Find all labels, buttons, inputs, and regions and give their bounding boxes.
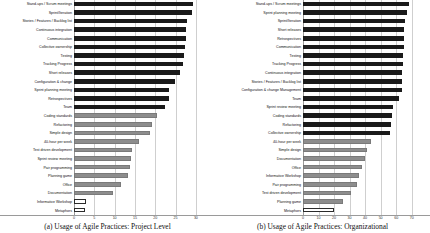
bar [303, 79, 402, 84]
bar-row: Coding standards [0, 112, 215, 121]
plot-area-b: Stand-ups / Scrum meetingsSprint plannin… [215, 0, 430, 215]
bar-cell [303, 77, 430, 86]
bar-cell [74, 120, 215, 129]
category-label: Tracking Progress [215, 62, 303, 66]
bar [74, 191, 113, 196]
category-label: Stand-ups / Scrum meetings [215, 2, 303, 6]
bar-row: Pair programming [215, 180, 430, 189]
bar [303, 122, 391, 127]
bar-cell [303, 189, 430, 198]
bar-row: Testing [215, 52, 430, 61]
bar [303, 113, 392, 118]
bar-row: Test driven development [215, 189, 430, 198]
bar-cell [74, 26, 215, 35]
bar-cell [74, 172, 215, 181]
bar-cell [303, 146, 430, 155]
bar-row: Tracking Progress [0, 60, 215, 69]
bar-cell [303, 69, 430, 78]
bar-row: Configuration & change Management [215, 86, 430, 95]
bar-row: Retrospectives [215, 34, 430, 43]
bar-row: Simple design [0, 129, 215, 138]
bar-cell [303, 120, 430, 129]
bar-cell [303, 43, 430, 52]
category-label: Testing [215, 54, 303, 58]
bar [74, 131, 150, 136]
axis-tick-label: 10 [113, 216, 117, 221]
category-label: Test driven development [0, 148, 74, 152]
chart-panel-project-level: Stand-ups / Scrum meetingsSprint/Iterati… [0, 0, 215, 222]
bar [74, 70, 180, 75]
bar-row: Planning game [0, 172, 215, 181]
bar-cell [303, 34, 430, 43]
bar-cell [74, 77, 215, 86]
bar [303, 131, 390, 136]
bar [74, 156, 131, 161]
bar [303, 191, 351, 196]
bar-cell [303, 95, 430, 104]
category-label: Team [215, 97, 303, 101]
category-label: Pair programming [215, 183, 303, 187]
axis-tick-label: 0 [73, 216, 75, 221]
bar-row: Short releases [0, 69, 215, 78]
category-label: Office [0, 183, 74, 187]
category-label: Configuration & change [0, 80, 74, 84]
bar [303, 27, 404, 32]
bar [74, 36, 186, 41]
category-label: Coding standards [0, 114, 74, 118]
bar-cell [74, 163, 215, 172]
bar-cell [303, 60, 430, 69]
bar-row: Short releases [215, 26, 430, 35]
bar [74, 113, 157, 118]
axis-tick-label: 15 [133, 216, 137, 221]
bar-cell [303, 163, 430, 172]
axis-tick-label: 70 [410, 216, 414, 221]
bar [74, 79, 175, 84]
bar [303, 62, 403, 67]
category-label: Office [215, 166, 303, 170]
bar-cell [74, 180, 215, 189]
chart-panel-organizational-level: Stand-ups / Scrum meetingsSprint plannin… [215, 0, 430, 222]
x-axis-ticks-b: 010203040506070 [215, 215, 430, 222]
bar-row: Planning game [215, 198, 430, 207]
bar-cell [74, 155, 215, 164]
axis-tick-label: 30 [194, 216, 198, 221]
bar-cell [303, 0, 430, 9]
axis-tick-label: 20 [332, 216, 336, 221]
bar-row: Team [0, 103, 215, 112]
bar [303, 45, 404, 50]
bar-row: Simple design [215, 146, 430, 155]
category-label: Sprint planning meeting [0, 88, 74, 92]
bar-row: Retrospectives [0, 95, 215, 104]
bar [303, 19, 405, 24]
category-label: Sprint review meeting [215, 105, 303, 109]
bar [74, 173, 128, 178]
bar-cell [74, 112, 215, 121]
bar [74, 208, 85, 213]
bar-row: Sprint planning meeting [0, 86, 215, 95]
bar [74, 27, 186, 32]
bar-row: Collective ownership [215, 129, 430, 138]
plot-area-a: Stand-ups / Scrum meetingsSprint/Iterati… [0, 0, 215, 215]
bar [74, 199, 86, 204]
bar-cell [74, 103, 215, 112]
bar [303, 36, 404, 41]
bar-row: Sprint/Iteration [215, 17, 430, 26]
bar-cell [74, 206, 215, 215]
bar-cell [303, 112, 430, 121]
axis-tick-label: 60 [394, 216, 398, 221]
bar-cell [74, 17, 215, 26]
axis-tick-label: 40 [363, 216, 367, 221]
category-label: Documentation [0, 191, 74, 195]
caption-left: (a) Usage of Agile Practices: Project Le… [0, 222, 215, 231]
bar [74, 53, 184, 58]
bar [303, 88, 402, 93]
category-label: Metaphors [215, 209, 303, 213]
bar [303, 173, 359, 178]
bar-cell [303, 52, 430, 61]
category-label: Informative Workshop [215, 174, 303, 178]
figure-agile-practices-usage: Stand-ups / Scrum meetingsSprint/Iterati… [0, 0, 430, 233]
bar-row: Refactoring [215, 120, 430, 129]
bar-row: Communication [0, 34, 215, 43]
category-label: Tracking Progress [0, 62, 74, 66]
bar-cell [303, 103, 430, 112]
